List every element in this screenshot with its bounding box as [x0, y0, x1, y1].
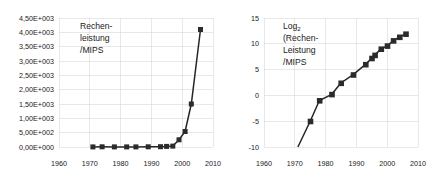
data-point-marker: [177, 137, 182, 142]
y-tick-label: 0: [255, 91, 259, 100]
annotation-line-3: /MIPS: [80, 45, 104, 55]
data-point-marker: [183, 129, 188, 134]
data-point-marker: [90, 144, 95, 149]
data-point-marker: [189, 102, 194, 107]
log2-mips-chart: 15 10 5 0 -5 -10 1960 1970 1980 1990 200…: [221, 0, 442, 188]
annotation-log-text: Log: [283, 21, 298, 31]
y-axis-tick-labels: 4,50E+003 4,00E+003 3,50E+003 3,00E+003 …: [19, 14, 54, 152]
y-tick-label: 2,50E+003: [19, 71, 54, 80]
data-point-marker: [124, 144, 129, 149]
x-tick-label: 1990: [348, 159, 364, 168]
series-markers: [308, 31, 409, 124]
y-tick-label: 2,00E+003: [19, 85, 54, 94]
y-tick-label: 10: [251, 39, 259, 48]
x-tick-label: 2010: [205, 159, 221, 168]
data-point-marker: [164, 144, 169, 149]
series-linear-mips: [90, 27, 203, 149]
x-axis-tick-labels: 1960 1970 1980 1990 2000 2010: [51, 159, 221, 168]
x-tick-label: 1970: [82, 159, 98, 168]
linear-mips-chart: 4,50E+003 4,00E+003 3,50E+003 3,00E+003 …: [0, 0, 221, 188]
chart-panel-linear: 4,50E+003 4,00E+003 3,50E+003 3,00E+003 …: [0, 0, 221, 188]
y-tick-label: 15: [251, 14, 259, 23]
x-tick-label: 1960: [51, 159, 67, 168]
data-point-marker: [403, 31, 409, 37]
y-tick-label: -10: [249, 143, 259, 152]
x-tick-label: 2010: [410, 159, 426, 168]
data-point-marker: [391, 38, 397, 44]
data-point-marker: [317, 98, 323, 104]
annotation-line-2: (Rechen-: [283, 33, 318, 43]
annotation-line-2: leistung: [80, 33, 110, 43]
x-tick-label: 1980: [113, 159, 129, 168]
x-tick-label: 2000: [174, 159, 190, 168]
y-tick-label: 3,50E+003: [19, 42, 54, 51]
annotation-line-4: /MIPS: [283, 57, 307, 67]
annotation-line-1: Rechen-: [80, 21, 113, 31]
data-point-marker: [100, 144, 105, 149]
y-tick-label: -5: [253, 117, 259, 126]
data-point-marker: [308, 119, 314, 125]
computing-performance-figure: 4,50E+003 4,00E+003 3,50E+003 3,00E+003 …: [0, 0, 442, 188]
data-point-marker: [170, 144, 175, 149]
series-markers: [90, 27, 203, 149]
data-point-marker: [397, 35, 403, 41]
y-tick-label: 0,00E+000: [19, 143, 54, 152]
y-tick-label: 5: [255, 65, 259, 74]
y-tick-label: 5,00E+002: [19, 128, 54, 137]
data-point-marker: [338, 81, 344, 87]
data-point-marker: [363, 62, 369, 68]
x-axis-tick-labels: 1960 1970 1980 1990 2000 2010: [256, 159, 426, 168]
annotation-line-1: Log2: [283, 21, 301, 32]
annotation-log-subscript: 2: [297, 25, 301, 32]
data-point-marker: [379, 46, 385, 52]
y-tick-label: 3,00E+003: [19, 57, 54, 66]
data-point-marker: [372, 53, 378, 59]
axis-annotation-rechenleistung: Rechen- leistung /MIPS: [80, 21, 113, 55]
data-point-marker: [198, 27, 203, 32]
x-tick-label: 1960: [256, 159, 272, 168]
data-point-marker: [329, 92, 335, 98]
data-point-marker: [146, 144, 151, 149]
y-tick-label: 1,00E+003: [19, 114, 54, 123]
x-tick-label: 2000: [379, 159, 395, 168]
y-tick-label: 1,50E+003: [19, 100, 54, 109]
data-point-marker: [351, 72, 357, 78]
x-tick-label: 1980: [318, 159, 334, 168]
y-tick-label: 4,00E+003: [19, 28, 54, 37]
chart-panel-log2: 15 10 5 0 -5 -10 1960 1970 1980 1990 200…: [221, 0, 442, 188]
y-axis-tick-labels: 15 10 5 0 -5 -10: [249, 14, 259, 152]
annotation-line-3: Leistung: [283, 45, 316, 55]
data-point-marker: [112, 144, 117, 149]
x-tick-label: 1990: [143, 159, 159, 168]
x-tick-label: 1970: [287, 159, 303, 168]
data-point-marker: [385, 43, 391, 49]
data-point-marker: [133, 144, 138, 149]
y-tick-label: 4,50E+003: [19, 14, 54, 23]
data-point-marker: [158, 144, 163, 149]
